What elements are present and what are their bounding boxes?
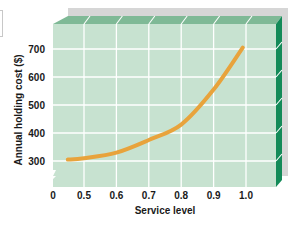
- x-tick-label: 0.5: [77, 190, 91, 201]
- x-tick-label: 0.6: [109, 190, 123, 201]
- y-tick-label: 600: [28, 72, 45, 83]
- x-tick-label: 0.7: [142, 190, 156, 201]
- x-axis-title: Service level: [135, 205, 196, 216]
- x-tick-label: 0.8: [174, 190, 188, 201]
- y-tick-label: 300: [28, 156, 45, 167]
- y-tick-label: 400: [28, 128, 45, 139]
- y-tick-label: 500: [28, 100, 45, 111]
- x-tick-label: 0: [50, 190, 56, 201]
- y-axis-ticks: 300400500600700: [28, 44, 45, 167]
- x-tick-label: 0.9: [207, 190, 221, 201]
- y-tick-label: 700: [28, 44, 45, 55]
- holding-cost-chart: 300400500600700 00.50.60.70.80.91.0 Serv…: [0, 0, 302, 229]
- x-axis-ticks: 00.50.60.70.80.91.0: [50, 190, 253, 201]
- y-axis-title: Annual holding cost ($): [13, 54, 24, 165]
- x-tick-label: 1.0: [239, 190, 253, 201]
